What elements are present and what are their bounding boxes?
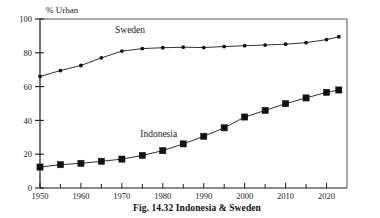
data-point-marker (59, 69, 63, 73)
series-sweden (38, 35, 341, 79)
data-point-marker (161, 46, 165, 50)
y-tick-label: 100 (19, 14, 32, 24)
data-point-marker (119, 156, 125, 162)
x-axis-tick-labels: 19501960197019801990200020102020 (32, 191, 336, 201)
x-tick-label: 1970 (113, 191, 130, 201)
data-point-marker (242, 114, 248, 120)
series-label-sweden: Sweden (115, 25, 145, 35)
y-tick-label: 60 (24, 82, 33, 92)
data-point-marker (139, 152, 145, 158)
y-axis-title: % Urban (46, 5, 79, 15)
x-tick-label: 2010 (277, 191, 294, 201)
x-tick-label: 2000 (236, 191, 253, 201)
data-point-marker (283, 101, 289, 107)
x-tick-label: 2020 (318, 191, 335, 201)
x-tick-label: 1950 (32, 191, 49, 201)
x-tick-label: 1960 (72, 191, 89, 201)
data-point-marker (304, 41, 308, 45)
data-point-marker (303, 95, 309, 101)
figure-caption-text: Fig. 14.32 Indonesia & Sweden (119, 203, 261, 213)
data-point-marker (98, 158, 104, 164)
data-point-marker (78, 160, 84, 166)
data-point-marker (325, 38, 329, 42)
data-point-marker (38, 75, 42, 79)
chart-canvas: 020406080100 195019601970198019902000201… (0, 0, 380, 218)
data-point-marker (202, 46, 206, 50)
data-point-marker (337, 35, 341, 39)
data-point-marker (140, 47, 144, 51)
series-indonesia (37, 87, 342, 170)
x-axis-ticks (40, 183, 327, 188)
series-line-indonesia (40, 90, 339, 167)
data-point-marker (262, 107, 268, 113)
data-point-marker (37, 164, 43, 170)
data-point-marker (284, 42, 288, 46)
data-point-marker (201, 133, 207, 139)
x-tick-label: 1990 (195, 191, 212, 201)
figure-caption: Fig. 14.32 Indonesia & Sweden (0, 203, 380, 213)
data-point-marker (323, 89, 329, 95)
series-line-sweden (40, 37, 339, 77)
data-point-marker (221, 125, 227, 131)
data-point-marker (180, 141, 186, 147)
data-point-marker (222, 45, 226, 49)
figure-container: 020406080100 195019601970198019902000201… (0, 0, 380, 218)
data-point-marker (336, 87, 342, 93)
data-point-marker (100, 56, 104, 60)
series-layer (37, 35, 342, 170)
y-tick-label: 20 (24, 149, 33, 159)
data-point-marker (160, 148, 166, 154)
series-label-indonesia: Indonesia (140, 129, 178, 139)
y-tick-label: 80 (24, 48, 33, 58)
data-point-marker (120, 49, 124, 53)
y-tick-label: 40 (24, 116, 33, 126)
data-point-marker (181, 45, 185, 49)
data-point-marker (243, 44, 247, 48)
data-point-marker (57, 162, 63, 168)
series-annotations: SwedenIndonesia (115, 25, 178, 140)
x-tick-label: 1980 (154, 191, 171, 201)
data-point-marker (263, 43, 267, 47)
data-point-marker (79, 64, 83, 68)
